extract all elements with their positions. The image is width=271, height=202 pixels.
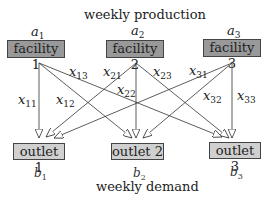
flow-label-x22: x22: [117, 83, 136, 99]
flow-label-x33: x33: [237, 89, 256, 105]
supply-label-3: a3: [227, 24, 241, 40]
flow-label-x11: x11: [18, 93, 37, 109]
supply-label-1: a1: [31, 25, 45, 41]
supply-label-2: a2: [131, 24, 145, 40]
facility-3-node: facility 3: [203, 39, 261, 57]
facility-2-node: facility 2: [106, 40, 164, 58]
demand-label-1: b1: [34, 167, 47, 182]
bottom-label: weekly demand: [96, 180, 199, 193]
flow-label-x12: x12: [56, 93, 75, 109]
outlet-3-node: outlet 3: [209, 142, 261, 159]
flow-label-x21: x21: [103, 65, 122, 81]
facility-1-node: facility 1: [7, 40, 65, 58]
demand-label-3: b3: [230, 166, 243, 181]
flow-label-x32: x32: [203, 89, 222, 105]
outlet-1-node: outlet 1: [13, 143, 65, 160]
flow-label-x23: x23: [153, 65, 172, 81]
top-label: weekly production: [84, 8, 206, 21]
flow-label-x31: x31: [189, 64, 208, 80]
flow-label-x13: x13: [69, 65, 88, 81]
outlet-2-node: outlet 2: [111, 143, 164, 160]
